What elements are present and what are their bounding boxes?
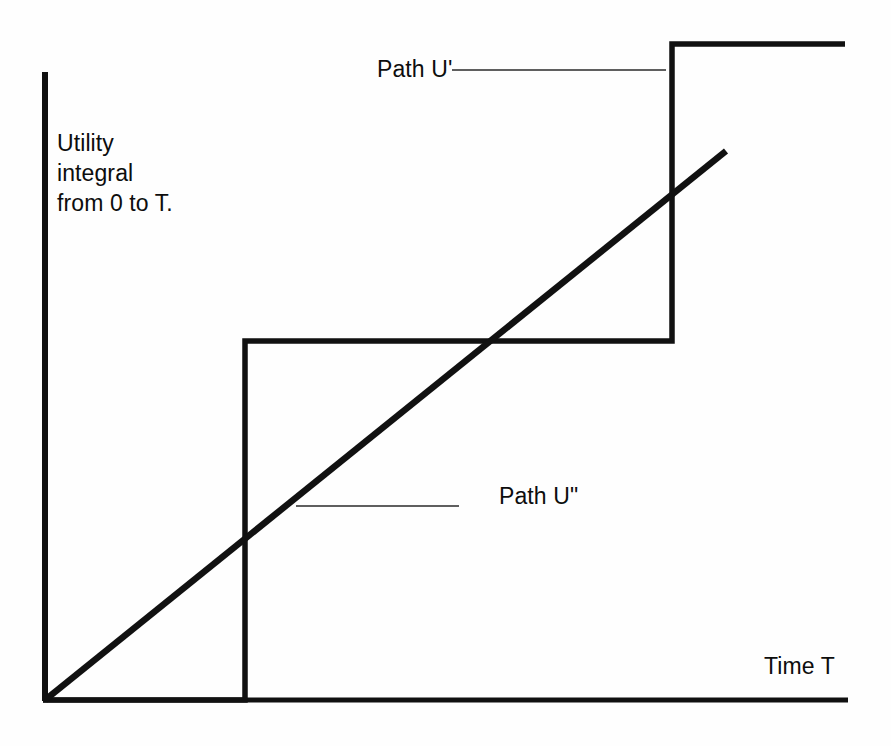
chart-plot-svg [0, 0, 891, 746]
annotation-path-u-double-prime: Path U" [499, 481, 578, 511]
annotation-path-u-prime: Path U' [377, 54, 452, 84]
y-axis-label: Utility integral from 0 to T. [57, 128, 173, 218]
x-axis-label: Time T [764, 651, 835, 681]
chart-figure: Utility integral from 0 to T. Time T Pat… [0, 0, 891, 746]
series-path-u-double-prime [45, 151, 726, 700]
